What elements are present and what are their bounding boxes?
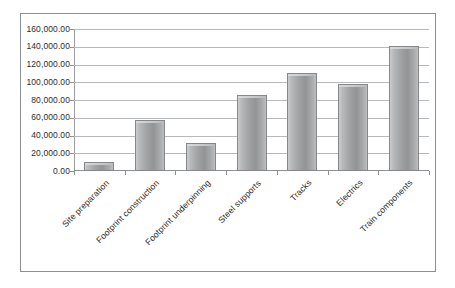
- chart-screenshot: 0.0020,000.0040,000.0060,000.0080,000.00…: [0, 0, 455, 288]
- bar[interactable]: [389, 46, 419, 171]
- y-axis-tick-label: 100,000.00: [26, 77, 70, 87]
- bar[interactable]: [186, 143, 216, 171]
- y-axis-tick: [70, 100, 74, 101]
- x-axis-labels: Site preparationFootprint constructionFo…: [74, 172, 454, 272]
- y-axis-tick: [70, 82, 74, 83]
- y-axis-tick-label: 20,000.00: [31, 148, 70, 158]
- plot-area: [74, 29, 429, 171]
- bar[interactable]: [84, 162, 114, 171]
- y-axis-tick-label: 80,000.00: [31, 95, 70, 105]
- y-axis-labels: 0.0020,000.0040,000.0060,000.0080,000.00…: [21, 29, 70, 172]
- gridline: [74, 65, 429, 66]
- chart-frame: 0.0020,000.0040,000.0060,000.0080,000.00…: [20, 13, 436, 272]
- y-axis-tick: [70, 118, 74, 119]
- y-axis-tick-label: 0.00: [53, 166, 70, 176]
- y-axis-tick: [70, 47, 74, 48]
- bar[interactable]: [338, 84, 368, 171]
- bar[interactable]: [237, 95, 267, 171]
- y-axis-tick-label: 40,000.00: [31, 130, 70, 140]
- x-axis-category-label: Steel supports: [216, 178, 263, 225]
- y-axis-tick: [70, 65, 74, 66]
- y-axis-tick: [70, 29, 74, 30]
- y-axis-tick-label: 60,000.00: [31, 112, 70, 122]
- gridline: [74, 29, 429, 30]
- x-axis-category-label: Electrics: [334, 178, 365, 209]
- gridline: [74, 82, 429, 83]
- y-axis-tick-label: 120,000.00: [26, 59, 70, 69]
- y-axis-tick-label: 140,000.00: [26, 41, 70, 51]
- bar[interactable]: [287, 73, 317, 172]
- x-axis-category-label: Tracks: [288, 178, 314, 204]
- x-axis-category-label: Site preparation: [60, 178, 111, 229]
- x-axis-category-label: Train components: [358, 178, 415, 235]
- bar[interactable]: [135, 120, 165, 171]
- y-axis-tick: [70, 153, 74, 154]
- y-axis-tick: [70, 136, 74, 137]
- y-axis-tick-label: 160,000.00: [26, 24, 70, 34]
- gridline: [74, 47, 429, 48]
